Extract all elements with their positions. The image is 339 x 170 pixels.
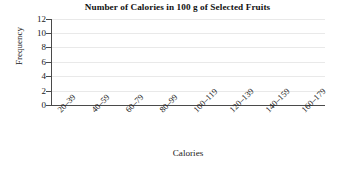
x-tick-label-120-139: 120–139 xyxy=(228,87,256,115)
x-tick-label-80-99: 80–99 xyxy=(158,93,180,115)
x-tick-label-40-59: 40–59 xyxy=(90,93,112,115)
x-axis-tick-labels: 20–39 40–59 60–79 80–99 100–119 120–139 … xyxy=(0,0,339,170)
x-tick-label-20-39: 20–39 xyxy=(56,93,78,115)
histogram-figure: Number of Calories in 100 g of Selected … xyxy=(0,0,339,170)
x-tick-label-160-179: 160–179 xyxy=(300,87,328,115)
x-tick-label-60-79: 60–79 xyxy=(124,93,146,115)
x-tick-label-100-119: 100–119 xyxy=(192,87,219,114)
x-axis-title: Calories xyxy=(51,148,325,159)
x-tick-label-140-159: 140–159 xyxy=(264,87,292,115)
